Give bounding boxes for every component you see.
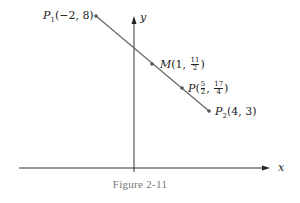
label-m: M(1, 112) xyxy=(160,57,205,72)
x-axis-arrow-icon xyxy=(262,166,270,171)
figure-caption: Figure 2-11 xyxy=(0,178,280,190)
point-p1 xyxy=(94,14,98,18)
y-axis-arrow-icon xyxy=(132,16,137,24)
point-p xyxy=(180,86,184,90)
coordinate-diagram xyxy=(0,0,300,203)
label-p: P(52, 174) xyxy=(188,81,228,96)
figure-2-11: P1(−2, 8) y M(1, 112) P(52, 174) P2(4, 3… xyxy=(0,0,300,203)
y-axis-label: y xyxy=(140,12,146,23)
point-p2 xyxy=(207,109,211,113)
x-axis-label: x xyxy=(278,162,284,173)
point-m xyxy=(150,62,154,66)
label-p1: P1(−2, 8) xyxy=(43,10,94,24)
label-p2: P2(4, 3) xyxy=(215,106,256,120)
